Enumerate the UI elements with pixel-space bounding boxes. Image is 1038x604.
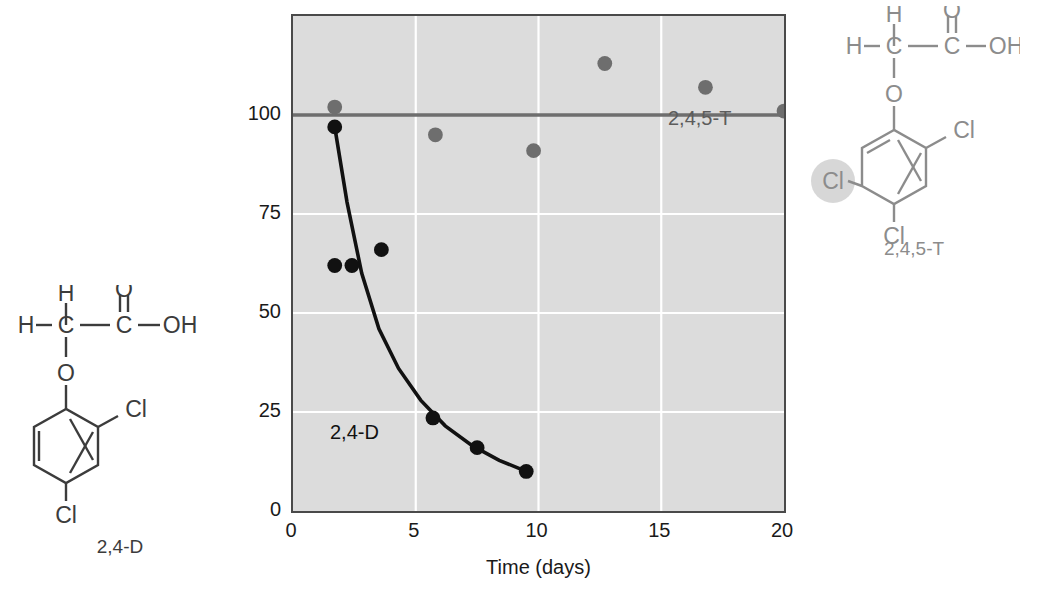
atom-c-alpha: C	[58, 312, 75, 338]
atom-h-top: H	[886, 6, 903, 27]
y-tick-label: 100	[235, 102, 281, 125]
x-tick-label: 15	[648, 519, 670, 542]
atom-cl-4: Cl	[55, 502, 77, 525]
structure-caption-245t: 2,4,5-T	[808, 238, 1020, 260]
data-point-24D	[374, 242, 389, 257]
structure-caption-24d: 2,4-D	[14, 536, 226, 558]
atom-cl-2: Cl	[125, 396, 147, 422]
atom-h-left: H	[846, 33, 863, 59]
atom-h-left: H	[18, 312, 35, 338]
data-point-245T	[428, 127, 443, 142]
atom-cl-2: Cl	[953, 117, 975, 143]
data-point-245T	[526, 143, 541, 158]
atom-c-carboxyl: C	[944, 33, 961, 59]
series-label-24d: 2,4-D	[330, 421, 379, 444]
x-tick-label: 20	[771, 519, 793, 542]
x-axis-label: Time (days)	[291, 556, 786, 579]
atom-oh: OH	[989, 33, 1020, 59]
atom-o-ether: O	[57, 360, 75, 386]
data-point-245T	[597, 56, 612, 71]
data-point-24D	[327, 119, 342, 134]
atom-oh: OH	[163, 312, 198, 338]
atom-c-carboxyl: C	[116, 312, 133, 338]
x-tick-label: 10	[525, 519, 547, 542]
atom-c-alpha: C	[886, 33, 903, 59]
data-point-245T	[327, 100, 342, 115]
x-tick-label: 5	[408, 519, 419, 542]
structure-245t: H H C C O OH O Cl Cl Cl	[808, 6, 1020, 246]
data-point-24D	[426, 411, 441, 426]
data-point-24D	[327, 258, 342, 273]
y-tick-label: 50	[235, 300, 281, 323]
y-tick-label: 75	[235, 201, 281, 224]
atom-o-double: O	[943, 6, 961, 23]
data-point-24D	[470, 440, 485, 455]
y-tick-label: 25	[235, 399, 281, 422]
x-tick-label: 0	[285, 519, 296, 542]
atom-o-ether: O	[885, 81, 903, 107]
structure-24d: H H C C O OH O Cl Cl	[14, 285, 226, 525]
atom-o-double: O	[115, 285, 133, 302]
figure-root: 0255075100 05101520 Relative herbicide c…	[0, 0, 1038, 604]
atom-h-top: H	[58, 285, 75, 306]
data-point-24D	[345, 258, 360, 273]
data-point-24D	[519, 464, 534, 479]
atom-cl-5: Cl	[822, 168, 844, 194]
data-point-245T	[698, 80, 713, 95]
y-tick-label: 0	[235, 498, 281, 521]
series-label-245t: 2,4,5-T	[668, 107, 731, 130]
